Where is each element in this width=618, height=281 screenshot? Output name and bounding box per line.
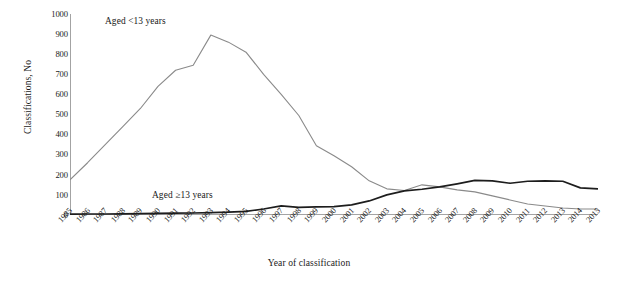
y-tick-label: 700 [34,70,68,79]
y-tick-label: 1000 [34,10,68,19]
y-tick-label: 200 [34,171,68,180]
x-axis-title: Year of classification [0,258,618,268]
y-tick-label: 900 [34,30,68,39]
axis-lines [70,14,598,215]
y-tick-label: 500 [34,110,68,119]
line-chart-figure: Classifications, No 10009008007006005004… [0,0,618,281]
series-canvas [70,14,598,215]
y-tick-label: 400 [34,130,68,139]
y-tick-label: 800 [34,50,68,59]
x-axis-tick-labels: 1985198619871988198919901991199219931994… [0,219,618,263]
y-tick-label: 300 [34,150,68,159]
y-tick-label: 600 [34,90,68,99]
y-axis-tick-labels: 10009008007006005004003002001000 [28,0,68,215]
annotation-aged-13-plus: Aged ≥13 years [152,190,213,200]
plot-area [70,14,598,215]
annotation-aged-under-13: Aged <13 years [105,16,166,26]
y-tick-label: 100 [34,191,68,200]
